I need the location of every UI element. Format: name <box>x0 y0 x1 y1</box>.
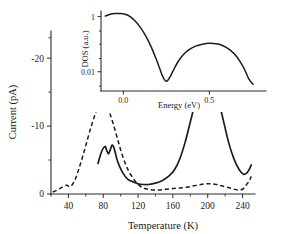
main-y-axis-title: Current (pA) <box>7 84 19 139</box>
chart-svg: 40801201602002400-10-20 Temperature (K) … <box>0 0 286 234</box>
inset-ytick-label: 0.01 <box>81 68 95 77</box>
main-xtick-label: 40 <box>64 201 74 211</box>
main-ytick-label: -10 <box>31 121 44 131</box>
inset-x-axis-title: Energy (eV) <box>158 100 200 110</box>
main-xtick-label: 240 <box>235 201 250 211</box>
main-xtick-label: 160 <box>166 201 181 211</box>
figure-container: 40801201602002400-10-20 Temperature (K) … <box>0 0 286 234</box>
inset-y-axis-title: DOS (a.u.) <box>80 30 90 67</box>
main-x-axis-title: Temperature (K) <box>128 220 199 232</box>
inset-xtick-label: 0.5 <box>204 96 214 105</box>
inset-ytick-label: 1 <box>91 13 95 22</box>
main-ytick-label: -20 <box>31 54 44 64</box>
main-ytick-label: 0 <box>39 189 44 199</box>
main-xtick-label: 120 <box>131 201 146 211</box>
main-xtick-label: 200 <box>201 201 216 211</box>
main-xtick-label: 80 <box>98 201 108 211</box>
inset-xtick-label: 0.0 <box>118 96 128 105</box>
inset-plot: 0.00.510.01 Energy (eV) DOS (a.u.) <box>80 2 284 112</box>
inset-background <box>82 2 284 112</box>
